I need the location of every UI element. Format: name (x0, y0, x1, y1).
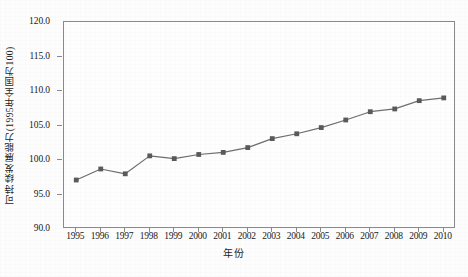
data-point-marker (74, 178, 79, 183)
x-tick-label: 2007 (360, 231, 378, 242)
y-tick-mark (57, 159, 62, 160)
x-tick-mark (394, 228, 395, 232)
x-tick-mark (75, 228, 76, 232)
data-point-marker (417, 98, 422, 103)
y-tick-label: 110.0 (29, 85, 50, 95)
y-tick-label: 100.0 (29, 154, 50, 164)
y-tick-mark (57, 90, 62, 91)
plot-area (63, 21, 455, 228)
y-tick-label: 105.0 (29, 120, 50, 130)
data-point-marker (270, 136, 275, 141)
data-series-line-chart (64, 22, 456, 229)
chart-figure: 可持续发展能力(1995年全国为100) 120.0115.0110.0105.… (0, 0, 468, 277)
x-tick-mark (443, 228, 444, 232)
x-tick-label: 2003 (262, 231, 280, 242)
x-tick-mark (149, 228, 150, 232)
x-tick-mark (418, 228, 419, 232)
data-point-marker (368, 109, 373, 114)
data-point-marker (441, 96, 446, 101)
x-tick-mark (271, 228, 272, 232)
y-tick-label: 90.0 (34, 223, 50, 233)
x-tick-label: 2010 (434, 231, 452, 242)
data-point-marker (319, 125, 324, 130)
x-tick-label: 2006 (336, 231, 354, 242)
data-point-marker (98, 167, 103, 172)
y-tick-label: 95.0 (34, 189, 50, 199)
x-tick-label: 2002 (238, 231, 256, 242)
x-tick-mark (369, 228, 370, 232)
x-tick-label: 1995 (66, 231, 84, 242)
x-tick-mark (198, 228, 199, 232)
data-point-marker (123, 171, 128, 176)
data-point-marker (221, 150, 226, 155)
x-tick-label: 1996 (91, 231, 109, 242)
x-tick-label: 2004 (287, 231, 305, 242)
y-tick-mark (57, 194, 62, 195)
y-tick-label: 120.0 (29, 16, 50, 26)
x-tick-label: 2005 (311, 231, 329, 242)
y-tick-label: 115.0 (29, 51, 50, 61)
x-axis-title: 年份 (0, 248, 468, 260)
data-point-marker (392, 107, 397, 112)
y-tick-mark (57, 125, 62, 126)
data-point-marker (294, 131, 299, 136)
data-point-marker (147, 153, 152, 158)
x-tick-mark (320, 228, 321, 232)
x-tick-mark (100, 228, 101, 232)
x-tick-label: 2001 (213, 231, 231, 242)
x-tick-label: 2000 (189, 231, 207, 242)
x-tick-label: 1999 (164, 231, 182, 242)
x-tick-mark (173, 228, 174, 232)
data-point-marker (343, 118, 348, 123)
x-tick-mark (222, 228, 223, 232)
series-line (76, 98, 444, 180)
x-tick-label: 1997 (115, 231, 133, 242)
x-tick-label: 2008 (385, 231, 403, 242)
data-point-marker (245, 145, 250, 150)
x-axis-tick-labels: 1995199619971998199920002001200220032004… (63, 231, 455, 247)
x-tick-mark (345, 228, 346, 232)
x-tick-label: 1998 (140, 231, 158, 242)
data-point-marker (196, 152, 201, 157)
x-tick-mark (247, 228, 248, 232)
x-tick-label: 2009 (409, 231, 427, 242)
x-tick-mark (124, 228, 125, 232)
y-axis-tick-labels: 120.0115.0110.0105.0100.095.090.0 (0, 0, 58, 277)
y-tick-mark (57, 56, 62, 57)
series-markers (74, 96, 446, 183)
x-tick-mark (296, 228, 297, 232)
data-point-marker (172, 156, 177, 161)
